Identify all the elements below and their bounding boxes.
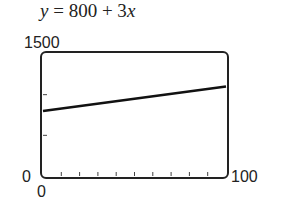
data-line xyxy=(43,87,226,111)
plot-frame xyxy=(41,52,228,178)
plot-area xyxy=(0,0,284,210)
x-axis-ticks xyxy=(61,172,207,176)
y-axis-ticks xyxy=(43,95,47,136)
